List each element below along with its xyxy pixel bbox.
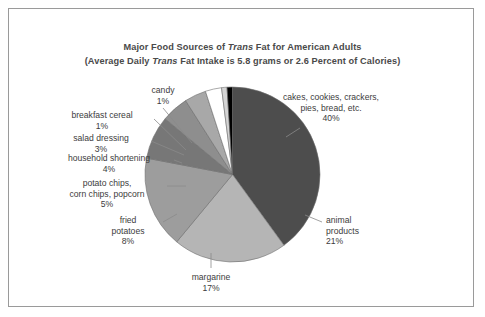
slice-label-household-shortening-line1: household shortening xyxy=(44,153,174,164)
slice-label-cakes: cakes, cookies, crackers, pies, bread, e… xyxy=(283,92,379,124)
slice-label-potato-chips: potato chips, corn chips, popcorn 5% xyxy=(48,178,166,210)
slice-label-animal-line1: animal xyxy=(326,215,386,226)
slice-label-candy: candy 1% xyxy=(134,85,192,106)
slice-label-candy-line1: candy xyxy=(134,85,192,96)
slice-label-animal-products: animal products 21% xyxy=(326,215,386,247)
slice-label-cakes-value: 40% xyxy=(283,113,379,124)
slice-label-salad-dressing-value: 3% xyxy=(52,144,150,155)
slice-label-breakfast-cereal: breakfast cereal 1% xyxy=(52,110,152,131)
slice-label-candy-value: 1% xyxy=(134,96,192,107)
slice-label-cakes-line1: cakes, cookies, crackers, xyxy=(283,92,379,103)
slice-label-cakes-line2: pies, bread, etc. xyxy=(283,103,379,114)
slice-label-fried-potatoes-value: 8% xyxy=(98,236,158,247)
slice-label-potato-chips-value: 5% xyxy=(48,199,166,210)
slice-label-household-shortening-value: 4% xyxy=(44,164,174,175)
slice-label-animal-value: 21% xyxy=(326,236,386,247)
slice-label-household-shortening: household shortening 4% xyxy=(44,153,174,174)
slice-label-margarine: margarine 17% xyxy=(171,272,251,293)
slice-label-breakfast-cereal-line1: breakfast cereal xyxy=(52,110,152,121)
slice-label-margarine-value: 17% xyxy=(171,283,251,294)
figure-canvas: Major Food Sources of Trans Fat for Amer… xyxy=(0,0,485,317)
slice-label-fried-potatoes: fried potatoes 8% xyxy=(98,215,158,247)
slice-label-fried-potatoes-line1: fried xyxy=(98,215,158,226)
slice-label-salad-dressing: salad dressing 3% xyxy=(52,133,150,154)
slice-label-animal-line2: products xyxy=(326,226,386,237)
slice-label-fried-potatoes-line2: potatoes xyxy=(98,226,158,237)
slice-label-salad-dressing-line1: salad dressing xyxy=(52,133,150,144)
slice-label-breakfast-cereal-value: 1% xyxy=(52,121,152,132)
slice-label-potato-chips-line1: potato chips, xyxy=(48,178,166,189)
slice-label-margarine-line1: margarine xyxy=(171,272,251,283)
slice-label-potato-chips-line2: corn chips, popcorn xyxy=(48,189,166,200)
